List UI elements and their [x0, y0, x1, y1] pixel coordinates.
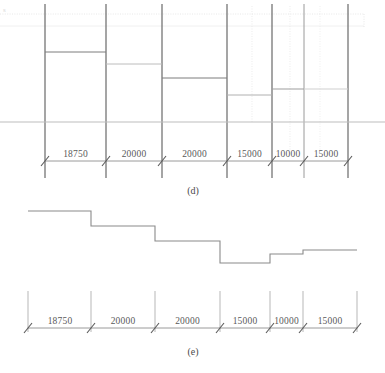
panel-d-caption: (d) [187, 185, 199, 197]
dim-label-e-1: 18750 [48, 316, 73, 326]
panel-e-step-profile [28, 211, 357, 263]
panel-d-step-profile [45, 52, 348, 95]
panel-e-group: 18750 20000 20000 15000 10000 15000 (e) [24, 211, 361, 358]
dim-label-d-2: 20000 [122, 149, 147, 159]
engineering-drawing-figure: 18750 20000 20000 15000 10000 15000 (d) … [0, 0, 385, 373]
dim-label-e-2: 20000 [111, 316, 136, 326]
dim-label-d-5: 10000 [276, 149, 301, 159]
figure-canvas: 18750 20000 20000 15000 10000 15000 (d) … [0, 0, 385, 373]
dim-label-e-6: 15000 [318, 316, 343, 326]
dim-label-d-1: 18750 [63, 149, 88, 159]
panel-d-group: 18750 20000 20000 15000 10000 15000 (d) … [0, 4, 385, 197]
dim-label-d-6: 15000 [314, 149, 339, 159]
panel-e-dimension-labels: 18750 20000 20000 15000 10000 15000 [48, 316, 343, 326]
dim-label-e-4: 15000 [233, 316, 258, 326]
dim-label-d-4: 15000 [237, 149, 262, 159]
panel-e-caption: (e) [187, 346, 198, 358]
panel-d-dimension-labels: 18750 20000 20000 15000 10000 15000 [63, 149, 338, 159]
corner-artifact-mark: s [3, 6, 6, 14]
dim-label-d-3: 20000 [182, 149, 207, 159]
dim-label-e-3: 20000 [175, 316, 200, 326]
dim-label-e-5: 10000 [274, 316, 299, 326]
